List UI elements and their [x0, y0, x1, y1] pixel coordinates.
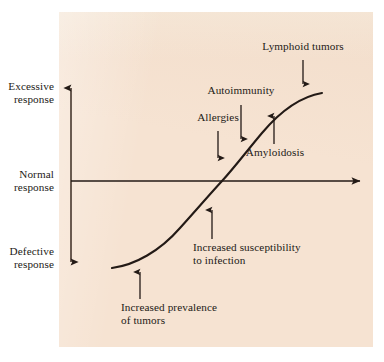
y-label-excessive-response: Excessive response	[0, 80, 54, 106]
annotation-increased-prevalence-of-tumors: Increased prevalence of tumors	[121, 301, 257, 327]
annotation-autoimmunity: Autoimmunity	[186, 84, 296, 97]
annotation-lymphoid-tumors: Lymphoid tumors	[246, 40, 360, 53]
annotation-amyloidosis: Amyloidosis	[232, 146, 318, 159]
annotation-allergies: Allergies	[182, 111, 254, 124]
annotation-increased-susceptibility-to-infection: Increased susceptibility to infection	[193, 241, 333, 267]
y-label-defective-response: Defective response	[0, 245, 54, 271]
y-label-normal-response: Normal response	[0, 168, 54, 194]
immune-response-figure: Excessive response Normal response Defec…	[0, 0, 384, 362]
